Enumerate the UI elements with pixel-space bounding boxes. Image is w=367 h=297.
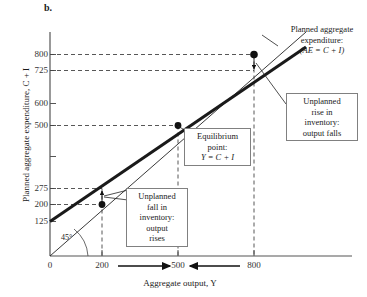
annotation-equilibrium-line3: Y = C + I xyxy=(188,152,247,163)
annotation-ae-line2: expenditure: xyxy=(278,35,366,46)
leader-fall-lower xyxy=(104,197,128,200)
annotation-ae-line: Planned aggregate expenditure: (AE = C +… xyxy=(278,24,366,56)
annotation-fall-line4: output xyxy=(130,223,184,234)
annotation-rise-line3: inventory: xyxy=(290,117,354,128)
annotation-unplanned-fall: Unplanned fall in inventory: output rise… xyxy=(126,188,188,247)
annotation-fall-line2: fall in xyxy=(130,202,184,213)
annotation-equilibrium-line2: point: xyxy=(188,142,247,153)
annotation-equilibrium-line1: Equilibrium xyxy=(188,131,247,142)
annotation-fall-line1: Unplanned xyxy=(130,191,184,202)
annotation-ae-line3: (AE = C + I) xyxy=(278,45,366,56)
aggregate-expenditure-figure: b. Planned aggregate expenditure, C + I … xyxy=(0,0,367,297)
leader-ae xyxy=(262,35,278,46)
annotation-equilibrium: Equilibrium point: Y = C + I xyxy=(184,128,251,166)
annotation-fall-line5: rises xyxy=(130,233,184,244)
annotation-rise-line2: rise in xyxy=(290,107,354,118)
annotation-rise-line1: Unplanned xyxy=(290,96,354,107)
annotation-ae-line1: Planned aggregate xyxy=(278,24,366,35)
annotation-fall-line3: inventory: xyxy=(130,212,184,223)
annotation-rise-line4: output falls xyxy=(290,128,354,139)
leader-fall-upper xyxy=(104,190,128,196)
annotation-unplanned-rise: Unplanned rise in inventory: output fall… xyxy=(286,93,358,141)
